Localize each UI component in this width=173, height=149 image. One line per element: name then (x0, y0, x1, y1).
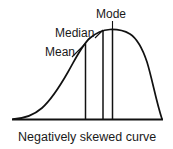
distribution-plot: Mode Median Mean Negatively skewed curve (0, 0, 173, 149)
figure-caption: Negatively skewed curve (18, 130, 156, 144)
mean-label: Mean (45, 45, 75, 59)
distribution-curve (13, 29, 162, 119)
median-label: Median (55, 26, 94, 40)
mode-label: Mode (96, 7, 126, 21)
negatively-skewed-curve-figure: Mode Median Mean Negatively skewed curve (0, 0, 173, 149)
